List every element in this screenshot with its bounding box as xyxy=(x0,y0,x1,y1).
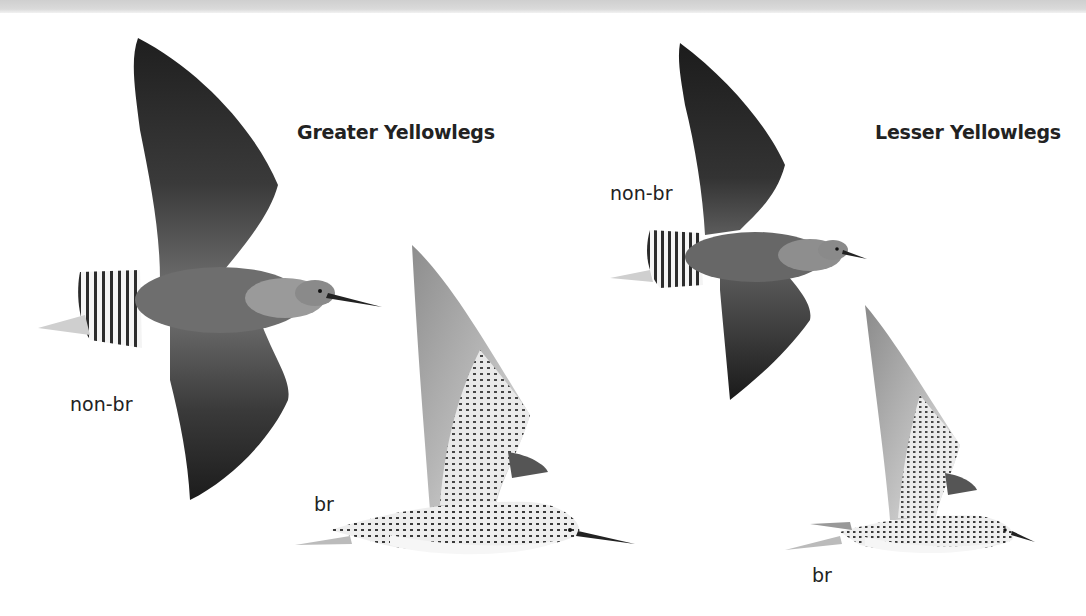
top-band xyxy=(0,0,1086,13)
greater-yellowlegs-breeding-illustration xyxy=(290,240,640,560)
label-lesser-breeding: br xyxy=(812,564,832,586)
species-title-lesser-yellowlegs: Lesser Yellowlegs xyxy=(875,121,1061,143)
lesser-yellowlegs-breeding-illustration xyxy=(780,300,1040,560)
